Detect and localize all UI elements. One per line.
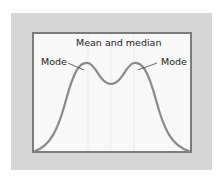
mode-left-label: Mode [41, 57, 67, 67]
chart-title: Mean and median [76, 38, 161, 48]
bimodal-curve [35, 63, 189, 151]
mode-right-label: Mode [161, 57, 187, 67]
gridlines [88, 34, 134, 151]
distribution-plot [0, 0, 216, 178]
